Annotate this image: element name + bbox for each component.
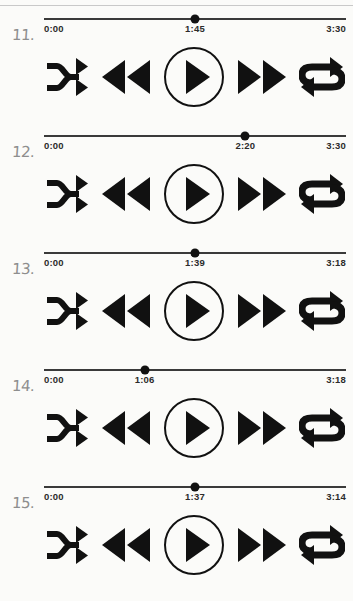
transport-controls — [44, 278, 346, 344]
seek-track[interactable] — [44, 135, 346, 137]
play-button[interactable] — [162, 45, 226, 109]
shuffle-icon[interactable] — [44, 288, 90, 334]
seek-track[interactable] — [44, 486, 346, 488]
exercise-index: 13. — [11, 260, 35, 278]
time-elapsed: 0:00 — [44, 140, 64, 151]
seek-bar[interactable]: 0:00 1:37 3:14 — [44, 478, 346, 505]
time-row: 0:00 1:37 3:14 — [44, 491, 346, 505]
seek-bar[interactable]: 0:00 1:45 3:30 — [44, 10, 346, 37]
time-total: 3:30 — [326, 140, 346, 151]
time-row: 0:00 1:39 3:18 — [44, 257, 346, 271]
repeat-icon[interactable] — [298, 54, 346, 100]
shuffle-icon[interactable] — [44, 171, 90, 217]
time-current: 1:37 — [185, 491, 205, 502]
time-current: 1:06 — [135, 374, 155, 385]
fast-forward-icon[interactable] — [235, 173, 289, 215]
play-button[interactable] — [162, 513, 226, 577]
time-total: 3:14 — [326, 491, 346, 502]
play-button[interactable] — [162, 162, 226, 226]
seek-track[interactable] — [44, 369, 346, 371]
seek-track[interactable] — [44, 18, 346, 20]
exercise-index: 14. — [11, 377, 35, 395]
repeat-icon[interactable] — [298, 288, 346, 334]
time-total: 3:18 — [326, 374, 346, 385]
player-block: 14. 0:00 1:06 3:18 — [0, 361, 353, 478]
transport-controls — [44, 161, 346, 227]
exercise-index: 15. — [11, 494, 35, 512]
rewind-icon[interactable] — [99, 524, 153, 566]
transport-controls — [44, 512, 346, 578]
rewind-icon[interactable] — [99, 56, 153, 98]
rewind-icon[interactable] — [99, 407, 153, 449]
player-mockup-sheet: 11. 0:00 1:45 3:30 — [0, 0, 353, 601]
time-elapsed: 0:00 — [44, 491, 64, 502]
time-elapsed: 0:00 — [44, 257, 64, 268]
player-block: 11. 0:00 1:45 3:30 — [0, 10, 353, 127]
time-total: 3:30 — [326, 23, 346, 34]
fast-forward-icon[interactable] — [235, 524, 289, 566]
time-elapsed: 0:00 — [44, 23, 64, 34]
time-current: 1:39 — [185, 257, 205, 268]
rewind-icon[interactable] — [99, 173, 153, 215]
shuffle-icon[interactable] — [44, 522, 90, 568]
fast-forward-icon[interactable] — [235, 407, 289, 449]
seek-track[interactable] — [44, 252, 346, 254]
fast-forward-icon[interactable] — [235, 56, 289, 98]
player-block: 12. 0:00 2:20 3:30 — [0, 127, 353, 244]
repeat-icon[interactable] — [298, 171, 346, 217]
repeat-icon[interactable] — [298, 405, 346, 451]
transport-controls — [44, 395, 346, 461]
rewind-icon[interactable] — [99, 290, 153, 332]
time-total: 3:18 — [326, 257, 346, 268]
fast-forward-icon[interactable] — [235, 290, 289, 332]
play-button[interactable] — [162, 279, 226, 343]
time-row: 0:00 1:06 3:18 — [44, 374, 346, 388]
player-block: 15. 0:00 1:37 3:14 — [0, 478, 353, 595]
shuffle-icon[interactable] — [44, 54, 90, 100]
player-block: 13. 0:00 1:39 3:18 — [0, 244, 353, 361]
play-button[interactable] — [162, 396, 226, 460]
seek-bar[interactable]: 0:00 2:20 3:30 — [44, 127, 346, 154]
seek-bar[interactable]: 0:00 1:06 3:18 — [44, 361, 346, 388]
time-current: 2:20 — [236, 140, 256, 151]
time-row: 0:00 2:20 3:30 — [44, 140, 346, 154]
transport-controls — [44, 44, 346, 110]
shuffle-icon[interactable] — [44, 405, 90, 451]
exercise-index: 11. — [11, 26, 35, 44]
exercise-index: 12. — [11, 143, 35, 161]
time-elapsed: 0:00 — [44, 374, 64, 385]
seek-bar[interactable]: 0:00 1:39 3:18 — [44, 244, 346, 271]
repeat-icon[interactable] — [298, 522, 346, 568]
time-current: 1:45 — [185, 23, 205, 34]
time-row: 0:00 1:45 3:30 — [44, 23, 346, 37]
